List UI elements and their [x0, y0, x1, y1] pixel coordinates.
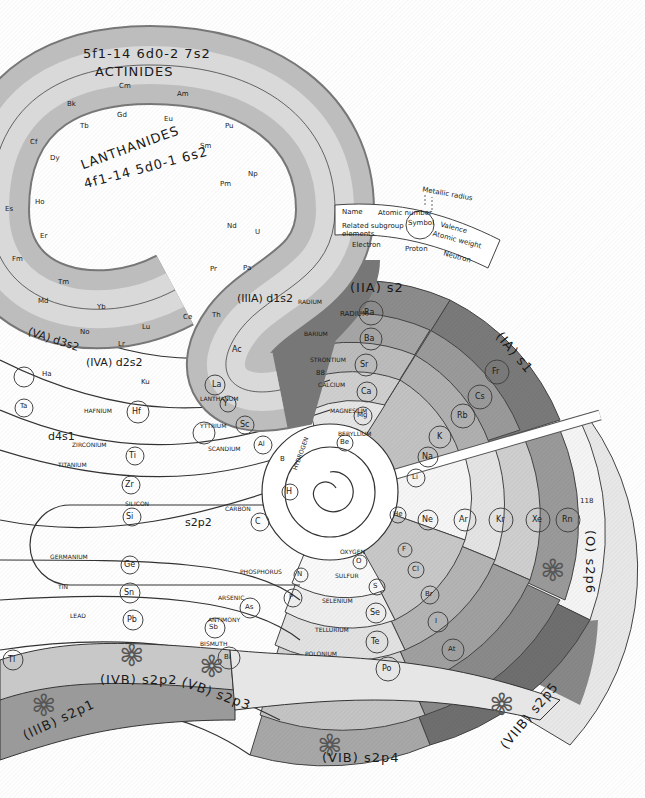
element-Ra-num: 88	[316, 369, 325, 377]
element-O: O	[356, 557, 362, 565]
element-Nd: Nd	[227, 222, 237, 230]
element-Ra-name: RADIUM	[340, 310, 368, 318]
sp-label: s2p2	[185, 516, 212, 529]
element-He: He	[393, 510, 403, 518]
svg-text:✻: ✻	[200, 651, 223, 682]
element-Se: Se	[370, 608, 380, 617]
element-strontium-name: STRONTIUM	[310, 356, 346, 363]
legend-related: Related subgroup elements	[342, 222, 422, 238]
element-U: U	[255, 228, 260, 236]
element-Ti: Ti	[129, 451, 136, 460]
group-IVA-label: (IVA) d2s2	[86, 356, 142, 369]
group-IIIA-label: (IIIA) d1s2	[237, 292, 293, 305]
element-Zr: Zr	[125, 480, 134, 489]
element-As: As	[245, 603, 253, 611]
element-Pb: Pb	[127, 615, 137, 624]
element-sulfur-name: SULFUR	[335, 572, 359, 579]
legend-atomic-number: Atomic number	[378, 209, 432, 217]
element-germanium-name: GERMANIUM	[50, 553, 88, 560]
element-Lr: Lr	[118, 340, 125, 348]
element-F: F	[402, 545, 406, 553]
element-Ge: Ge	[124, 560, 135, 569]
group-VIB-label: (VIB) s2p4	[322, 750, 400, 765]
element-Th: Th	[212, 311, 221, 319]
legend-proton: Proton	[405, 245, 428, 253]
element-radium-name: RADIUM	[298, 298, 322, 305]
element-beryllium-name: BERYLLIUM	[338, 430, 371, 437]
element-tellurium-name: TELLURIUM	[315, 626, 349, 633]
element-Rb: Rb	[457, 411, 468, 420]
element-B: B	[280, 455, 285, 463]
element-Sc: Sc	[240, 420, 249, 429]
element-lead-name: LEAD	[70, 612, 86, 619]
element-Xe: Xe	[532, 515, 542, 524]
element-Be: Be	[340, 438, 349, 446]
element-bismuth-name: BISMUTH	[200, 640, 227, 647]
element-Er: Er	[40, 232, 47, 240]
element-Ta: Ta	[20, 402, 27, 410]
element-Pu: Pu	[225, 122, 234, 130]
element-Ca: Ca	[361, 387, 372, 396]
element-yttrium-name: YTTRIUM	[200, 422, 226, 429]
element-polonium-name: POLONIUM	[305, 650, 337, 657]
element-Br: Br	[425, 590, 433, 598]
element-Ar: Ar	[459, 515, 468, 524]
element-Hf: Hf	[132, 407, 141, 416]
group-0-label: (O) s2p6	[583, 530, 598, 594]
element-zirconium-name: ZIRCONIUM	[72, 441, 107, 448]
element-Pr: Pr	[210, 265, 217, 273]
group-IIA-label: (IIA) s2	[350, 280, 404, 295]
element-H: H	[286, 487, 292, 496]
element-Cs: Cs	[475, 392, 485, 401]
element-antimony-name: ANTIMONY	[208, 616, 240, 623]
element-Si: Si	[126, 512, 133, 521]
element-calcium-name: CALCIUM	[318, 381, 345, 388]
element-Cf: Cf	[30, 138, 37, 146]
element-Yb: Yb	[97, 303, 106, 311]
element-La: La	[212, 380, 221, 389]
element-arsenic-name: ARSENIC	[218, 594, 244, 601]
element-silicon-name: SILICON	[125, 500, 149, 507]
spiral-periodic-table: ✻ ✻ ✻ ✻ ✻ ✻ 5f1-14 6d0-2 7s2 ACTINIDES L…	[0, 0, 645, 798]
element-Lu: Lu	[142, 323, 150, 331]
element-Ce: Ce	[183, 313, 192, 321]
element-No: No	[80, 328, 90, 336]
element-P: P	[289, 593, 293, 601]
element-titanium-name: TITANIUM	[58, 461, 87, 468]
element-oxygen-name: OXYGEN	[340, 548, 365, 555]
element-Al: Al	[258, 440, 265, 448]
element-Ac: Ac	[232, 345, 242, 354]
element-Np: Np	[248, 170, 258, 178]
element-Rn: Rn	[562, 515, 573, 524]
element-Cl: Cl	[412, 565, 419, 573]
d4s1-label: d4s1	[48, 430, 75, 443]
element-Gd: Gd	[117, 111, 127, 119]
svg-text:✻: ✻	[541, 555, 564, 586]
element-selenium-name: SELENIUM	[322, 597, 353, 604]
element-barium-name: BARIUM	[304, 330, 328, 337]
element-scandium-name: SCANDIUM	[208, 445, 241, 452]
element-Sm: Sm	[200, 142, 211, 150]
element-At: At	[448, 645, 455, 653]
actinides-config: 5f1-14 6d0-2 7s2	[83, 46, 211, 61]
element-Md: Md	[38, 297, 48, 305]
element-Ba: Ba	[364, 334, 374, 343]
element-Ha: Ha	[42, 370, 52, 378]
element-C: C	[255, 517, 261, 526]
element-Es: Es	[5, 205, 13, 213]
element-Kr: Kr	[496, 515, 505, 524]
element-Ho: Ho	[35, 198, 45, 206]
element-118-num: 118	[580, 497, 593, 505]
element-tin-name: TIN	[58, 583, 68, 590]
element-phosphorus-name: PHOSPHORUS	[240, 568, 282, 575]
element-Tl: Tl	[8, 655, 15, 664]
element-Ku: Ku	[141, 378, 150, 386]
element-magnesium-name: MAGNESIUM	[330, 407, 367, 414]
element-Pm: Pm	[220, 180, 231, 188]
element-Li: Li	[412, 473, 418, 481]
element-Sr: Sr	[360, 360, 368, 369]
spiral-diagram: ✻ ✻ ✻ ✻ ✻ ✻	[0, 0, 645, 798]
element-Eu: Eu	[164, 115, 173, 123]
actinides-title: ACTINIDES	[95, 64, 174, 79]
element-lanthanum-name: LANTHANUM	[200, 395, 238, 402]
